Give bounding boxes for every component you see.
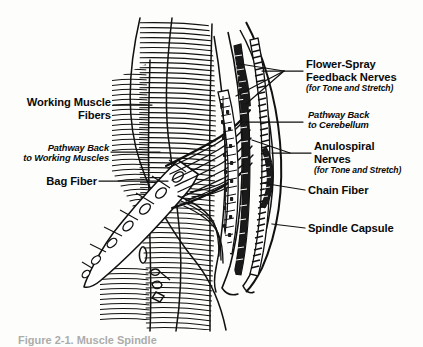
label-bag-fiber: Bag Fiber xyxy=(6,175,97,188)
label-pathway-cerebellum-line1: Pathway Back xyxy=(308,110,369,120)
label-pathway-back-to-cerebellum: Pathway Back to Cerebellum xyxy=(308,110,369,131)
label-working-muscle-fibers-line2: Fibers xyxy=(6,109,111,122)
label-spindle-capsule: Spindle Capsule xyxy=(308,222,394,235)
label-spindle-capsule-line1: Spindle Capsule xyxy=(308,222,394,235)
label-anulospiral-sub: (for Tone and Stretch) xyxy=(314,166,401,176)
figure-root: Working Muscle Fibers Pathway Back to Wo… xyxy=(0,0,423,347)
label-chain-fiber: Chain Fiber xyxy=(308,184,368,197)
label-pathway-working-muscles-line2: to Working Muscles xyxy=(4,153,109,163)
label-flower-spray-line2: Feedback Nerves xyxy=(306,71,397,84)
label-chain-fiber-line1: Chain Fiber xyxy=(308,184,368,197)
figure-caption: Figure 2-1. Muscle Spindle xyxy=(18,334,157,346)
label-bag-fiber-line1: Bag Fiber xyxy=(6,175,97,188)
label-anulospiral-line2: Nerves xyxy=(314,153,401,166)
label-anulospiral-nerves: Anulospiral Nerves (for Tone and Stretch… xyxy=(314,140,401,176)
label-flower-spray-feedback-nerves: Flower-Spray Feedback Nerves (for Tone a… xyxy=(306,58,397,94)
label-anulospiral-line1: Anulospiral xyxy=(314,140,401,153)
label-flower-spray-line1: Flower-Spray xyxy=(306,58,397,71)
label-pathway-cerebellum-line2: to Cerebellum xyxy=(308,120,369,130)
label-working-muscle-fibers: Working Muscle Fibers xyxy=(6,96,111,121)
label-flower-spray-sub: (for Tone and Stretch) xyxy=(306,84,397,94)
label-working-muscle-fibers-line1: Working Muscle xyxy=(6,96,111,109)
label-pathway-working-muscles-line1: Pathway Back xyxy=(4,143,109,153)
label-pathway-back-to-working-muscles: Pathway Back to Working Muscles xyxy=(4,143,109,164)
